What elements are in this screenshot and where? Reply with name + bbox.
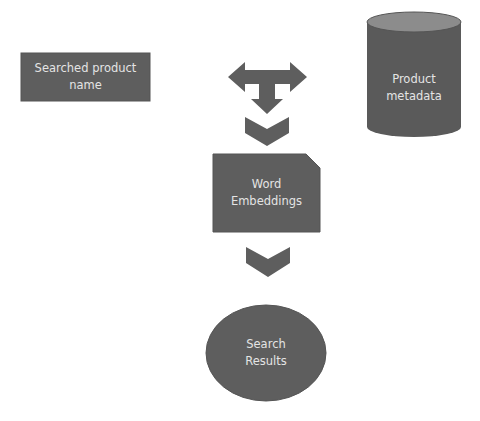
label-line: name [69,77,102,94]
chevron-down-icon [246,247,290,277]
label-line: metadata [386,88,442,105]
chevron-down-icon [245,117,289,146]
label-line: Embeddings [231,193,302,210]
label-line: Word [252,176,282,193]
searched-product-label: Searched product name [21,53,150,101]
label-line: Searched product [35,60,137,77]
label-line: Results [245,353,287,370]
label-line: Product [392,71,436,88]
word-embeddings-label: Word Embeddings [213,154,320,232]
cylinder-top [367,12,461,32]
label-line: Search [246,336,286,353]
product-metadata-label: Product metadata [367,40,461,136]
search-results-label: Search Results [206,305,326,401]
t-merge-arrow-icon [228,62,307,114]
